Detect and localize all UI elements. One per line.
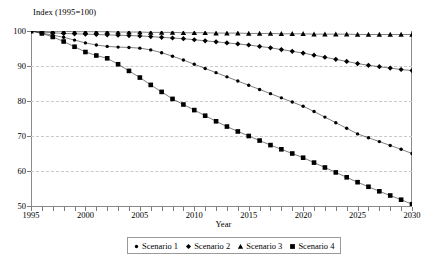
data-point — [301, 155, 306, 160]
legend-item-1[interactable]: Scenario 1 — [133, 240, 178, 252]
data-point — [268, 45, 273, 50]
data-point — [192, 37, 197, 42]
data-point — [366, 184, 371, 189]
x-axis-line — [31, 206, 412, 207]
data-point — [181, 31, 186, 35]
data-point — [181, 36, 186, 41]
series-line — [31, 31, 412, 35]
x-tick-mark — [53, 207, 54, 211]
data-point — [377, 64, 382, 69]
data-point — [214, 71, 217, 74]
y-tick-label: 80 — [0, 96, 26, 106]
legend-item-2[interactable]: Scenario 2 — [185, 240, 230, 252]
data-point — [236, 129, 241, 134]
diamond-icon — [185, 243, 192, 250]
data-point — [127, 69, 132, 74]
data-point — [388, 193, 393, 198]
data-point — [192, 108, 197, 113]
data-point — [159, 35, 164, 40]
data-point — [247, 84, 250, 87]
data-point — [116, 62, 121, 67]
plot-area — [31, 31, 412, 206]
data-point — [334, 121, 337, 124]
data-point — [159, 90, 164, 95]
triangle-icon — [237, 243, 244, 250]
data-point — [355, 180, 360, 185]
data-point — [291, 100, 294, 103]
x-tick-mark — [162, 207, 163, 211]
series-3 — [31, 31, 412, 37]
x-axis-label: Year — [0, 219, 447, 229]
data-point — [290, 49, 295, 54]
x-tick-mark — [216, 207, 217, 211]
data-point — [280, 96, 283, 99]
data-point — [159, 31, 164, 35]
series-line — [31, 31, 412, 154]
data-point — [311, 53, 316, 58]
data-point — [84, 41, 87, 44]
data-point — [170, 35, 175, 40]
y-tick-label: 70 — [0, 131, 26, 141]
legend-label: Scenario 4 — [298, 241, 334, 251]
data-point — [399, 67, 404, 72]
legend-item-4[interactable]: Scenario 4 — [289, 240, 334, 252]
data-point — [116, 45, 119, 48]
line-chart: Index (1995=100) 5060708090100 199520002… — [0, 0, 447, 267]
series-layer — [31, 31, 412, 206]
large-square-icon — [289, 243, 296, 250]
data-point — [62, 36, 65, 39]
series-1 — [31, 31, 412, 155]
data-point — [138, 75, 143, 80]
legend-label: Scenario 2 — [194, 241, 230, 251]
data-point — [203, 67, 206, 70]
data-point — [388, 66, 393, 71]
data-point — [83, 50, 88, 55]
data-point — [171, 55, 174, 58]
series-2 — [31, 31, 412, 73]
data-point — [367, 136, 370, 139]
data-point — [236, 79, 239, 82]
y-tick-label: 60 — [0, 166, 26, 176]
data-point — [399, 197, 404, 202]
data-point — [410, 152, 412, 155]
data-point — [106, 45, 109, 48]
data-point — [389, 144, 392, 147]
data-point — [333, 57, 338, 62]
data-point — [378, 140, 381, 143]
data-point — [356, 132, 359, 135]
data-point — [399, 148, 402, 151]
data-point — [148, 31, 153, 35]
data-point — [312, 160, 317, 165]
legend-item-3[interactable]: Scenario 3 — [237, 240, 282, 252]
data-point — [115, 31, 120, 34]
data-point — [105, 56, 110, 61]
data-point — [334, 170, 339, 175]
data-point — [301, 50, 306, 55]
data-point — [40, 31, 45, 36]
data-point — [138, 46, 141, 49]
y-tick-label: 90 — [0, 61, 26, 71]
data-point — [50, 35, 55, 40]
data-point — [182, 58, 185, 61]
data-point — [344, 59, 349, 64]
data-point — [193, 63, 196, 66]
data-point — [105, 31, 110, 34]
series-4 — [31, 31, 412, 206]
data-point — [258, 88, 261, 91]
data-point — [279, 47, 284, 52]
data-point — [323, 115, 326, 118]
data-point — [94, 53, 99, 58]
data-point — [409, 68, 412, 73]
data-point — [94, 31, 99, 34]
data-point — [312, 110, 315, 113]
data-point — [137, 31, 142, 34]
data-point — [257, 138, 262, 143]
small-circle-icon — [133, 243, 140, 250]
chart-title: Index (1995=100) — [33, 7, 96, 17]
data-point — [323, 165, 328, 170]
data-point — [170, 97, 175, 102]
data-point — [95, 43, 98, 46]
data-point — [225, 75, 228, 78]
data-point — [149, 48, 152, 51]
data-point — [214, 119, 219, 124]
